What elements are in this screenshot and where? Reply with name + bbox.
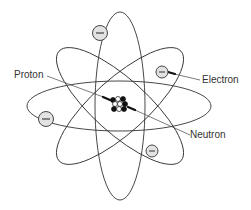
proton-arrowhead [103, 97, 110, 100]
proton-label: Proton [14, 69, 43, 81]
neutron-arrowhead [128, 107, 135, 110]
electron-left [39, 112, 54, 127]
proton-leader-line [47, 76, 106, 98]
atom-diagram [0, 0, 251, 210]
neutron-particle [117, 107, 122, 112]
electron-bottom-right [146, 145, 158, 157]
neutron-leader-line [135, 110, 190, 135]
neutron-particle [118, 102, 123, 107]
nucleus [111, 97, 128, 112]
electron-top [93, 26, 108, 41]
proton-particle [121, 97, 126, 102]
proton-particle [123, 102, 128, 107]
neutron-particle [116, 97, 121, 102]
neutron-label: Neutron [190, 129, 226, 141]
electron-arrowhead [168, 72, 175, 74]
electron-right [156, 66, 168, 78]
proton-particle [112, 107, 117, 112]
neutron-particle [113, 102, 118, 107]
electron-label: Electron [202, 74, 239, 86]
proton-particle [122, 107, 127, 112]
